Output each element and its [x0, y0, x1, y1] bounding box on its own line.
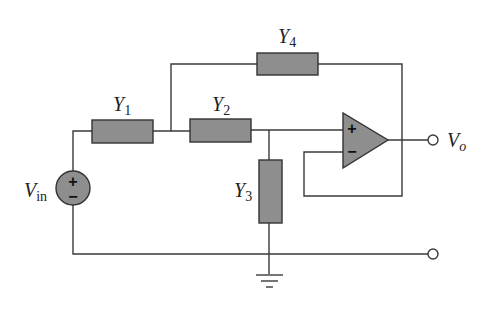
svg-text:−: −: [347, 143, 356, 160]
label-y2: Y2: [212, 94, 230, 118]
label-vin: Vin: [24, 180, 47, 204]
circuit-diagram: + − + −: [0, 0, 491, 309]
ground-icon: [256, 275, 283, 287]
label-y1: Y1: [113, 94, 131, 118]
admittance-y2: [190, 119, 251, 142]
output-terminal: [428, 135, 438, 145]
svg-text:+: +: [347, 120, 356, 137]
admittance-y4: [257, 53, 318, 75]
admittance-y1: [92, 120, 153, 143]
label-y4: Y4: [278, 26, 296, 50]
wire-ground-rail: [73, 198, 428, 254]
ground-terminal: [428, 249, 438, 259]
label-y3: Y3: [234, 180, 252, 204]
admittance-y3: [259, 160, 282, 223]
label-vo: Vo: [447, 130, 466, 154]
opamp-icon: + −: [343, 113, 388, 168]
voltage-source-icon: + −: [56, 171, 90, 205]
svg-text:−: −: [68, 188, 77, 205]
